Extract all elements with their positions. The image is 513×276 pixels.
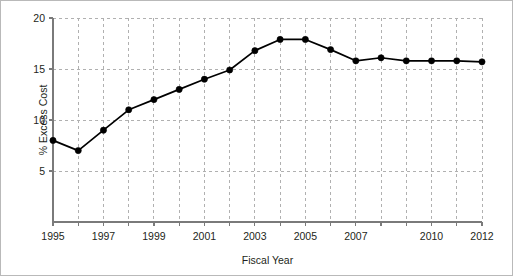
data-point-marker [252, 48, 258, 54]
data-point-marker [479, 59, 485, 65]
series-polyline [53, 39, 482, 150]
data-point-marker [378, 55, 384, 61]
data-point-marker [100, 127, 106, 133]
data-point-marker [353, 58, 359, 64]
data-point-marker [50, 137, 56, 143]
data-point-marker [75, 148, 81, 154]
data-point-marker [201, 76, 207, 82]
data-point-marker [327, 47, 333, 53]
data-markers [50, 36, 485, 153]
data-point-marker [151, 97, 157, 103]
data-point-marker [302, 36, 308, 42]
data-point-marker [403, 58, 409, 64]
data-point-marker [126, 107, 132, 113]
chart-figure: % Excess Cost Fiscal Year 5101520 199519… [0, 0, 513, 276]
data-point-marker [176, 86, 182, 92]
data-point-marker [428, 58, 434, 64]
horizontal-gridlines [53, 18, 482, 171]
data-line [53, 39, 482, 150]
data-point-marker [227, 67, 233, 73]
data-point-marker [277, 36, 283, 42]
data-point-marker [454, 58, 460, 64]
chart-plot [1, 1, 513, 276]
